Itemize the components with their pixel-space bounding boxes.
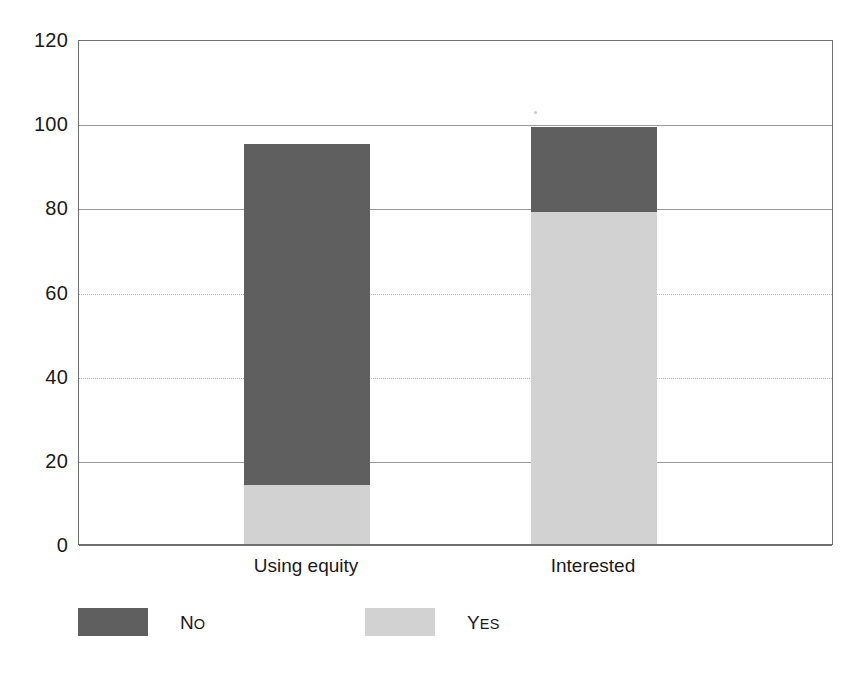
legend-label-yes-rest: ES [480,616,500,632]
x-axis: Using equity Interested [78,556,833,586]
legend-item-yes[interactable]: YES [365,605,500,639]
bar-segment-no[interactable] [244,144,370,485]
y-tick-label-40: 40 [45,367,68,387]
bar-segment-yes[interactable] [244,485,370,544]
x-cat-label-interested: Interested [551,556,636,575]
y-tick-label-100: 100 [34,114,68,134]
legend-label-no: NO [180,613,205,632]
plot-area [78,40,833,545]
legend-swatch-yes-icon [365,608,435,636]
bar-segment-no[interactable] [531,127,657,211]
legend-label-no-first: N [180,612,194,633]
y-tick-label-20: 20 [45,451,68,471]
bar-segment-yes[interactable] [531,212,657,545]
y-axis: 120 100 80 60 40 20 0 [0,40,68,545]
bars-layer [79,41,832,544]
x-cat-label-using-equity: Using equity [254,556,359,575]
y-tick-label-0: 0 [57,535,68,555]
legend-label-yes: YES [467,613,500,632]
stacked-bar-chart: 120 100 80 60 40 20 0 [0,0,859,675]
legend-label-no-rest: O [194,616,206,632]
gridline-0 [79,545,832,546]
legend-item-no[interactable]: NO [78,605,205,639]
bar-interested[interactable] [531,127,657,544]
y-tick-label-60: 60 [45,283,68,303]
legend: NO YES [78,605,538,645]
legend-swatch-no-icon [78,608,148,636]
legend-label-yes-first: Y [467,612,480,633]
y-tick-label-120: 120 [34,30,68,50]
y-tick-label-80: 80 [45,198,68,218]
bar-using-equity[interactable] [244,144,370,544]
